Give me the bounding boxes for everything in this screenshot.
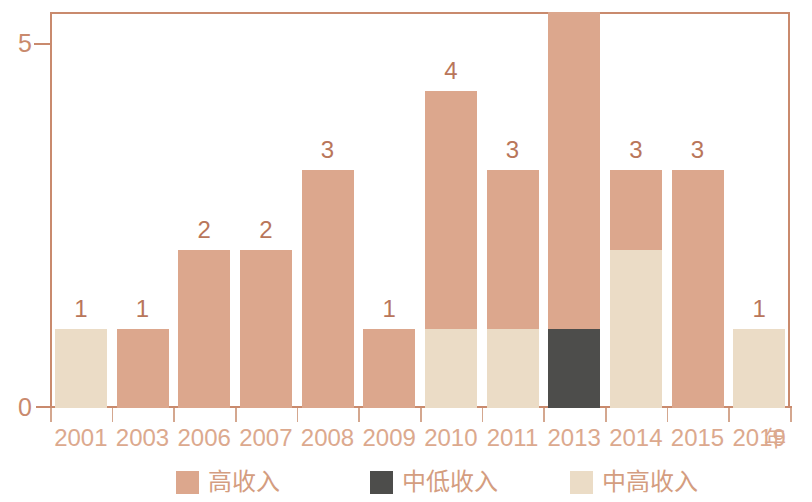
x-axis-label: 2010 — [420, 426, 482, 450]
x-axis-label: 2015 — [667, 426, 729, 450]
x-axis-label: 2007 — [235, 426, 297, 450]
bar-group[interactable] — [672, 170, 724, 408]
bar-segment[interactable] — [733, 329, 785, 408]
x-axis-label: 2006 — [173, 426, 235, 450]
x-axis-tick-mark — [297, 408, 299, 422]
legend-item-lower-middle-income[interactable]: 中低收入 — [370, 470, 498, 494]
x-axis-tick-mark — [112, 408, 114, 422]
bar-group[interactable] — [610, 170, 662, 408]
chart-legend: 高收入 中低收入 中高收入 — [0, 470, 812, 502]
x-axis-tick-mark — [358, 408, 360, 422]
bar-group[interactable] — [548, 12, 600, 408]
bar-segment[interactable] — [610, 170, 662, 249]
bar-segment[interactable] — [425, 91, 477, 329]
bar-value-label: 2 — [178, 218, 230, 242]
bar-segment[interactable] — [363, 329, 415, 408]
bar-segment[interactable] — [487, 329, 539, 408]
legend-item-high-income[interactable]: 高收入 — [176, 470, 280, 494]
x-axis-tick-mark — [790, 408, 792, 422]
legend-item-upper-middle-income[interactable]: 中高收入 — [570, 470, 698, 494]
x-axis-label: 2013 — [543, 426, 605, 450]
legend-swatch-high-income — [176, 471, 199, 494]
bar-segment[interactable] — [672, 170, 724, 408]
bar-segment[interactable] — [117, 329, 169, 408]
bar-value-label: 1 — [733, 297, 785, 321]
legend-swatch-lower-middle-income — [370, 471, 393, 494]
bar-segment[interactable] — [548, 12, 600, 329]
y-axis-tick-label-0: 0 — [2, 395, 32, 420]
bar-value-label: 2 — [240, 218, 292, 242]
legend-label-upper-middle-income: 中高收入 — [602, 470, 698, 494]
bar-segment[interactable] — [487, 170, 539, 328]
x-axis-tick-mark — [605, 408, 607, 422]
x-axis-label: 2009 — [358, 426, 420, 450]
x-axis-label: 2008 — [297, 426, 359, 450]
x-axis-label: 2001 — [50, 426, 112, 450]
bar-segment[interactable] — [610, 250, 662, 408]
bar-group[interactable] — [117, 329, 169, 408]
bar-segment[interactable] — [240, 250, 292, 408]
bar-group[interactable] — [178, 250, 230, 408]
bar-value-label: 1 — [55, 297, 107, 321]
x-axis-label: 2011 — [482, 426, 544, 450]
bar-group[interactable] — [240, 250, 292, 408]
x-axis-tick-mark — [543, 408, 545, 422]
x-axis-tick-mark — [50, 408, 52, 422]
bar-group[interactable] — [487, 170, 539, 408]
bar-value-label: 3 — [302, 138, 354, 162]
bar-group[interactable] — [733, 329, 785, 408]
x-axis-unit-label: 年 — [764, 428, 786, 450]
x-axis-tick-mark — [667, 408, 669, 422]
bar-value-label: 5 — [548, 0, 600, 4]
bar-group[interactable] — [425, 91, 477, 408]
x-axis-label: 2003 — [112, 426, 174, 450]
bars-layer: 112231435331 — [50, 12, 790, 408]
bar-segment[interactable] — [548, 329, 600, 408]
x-axis-tick-mark — [482, 408, 484, 422]
legend-label-high-income: 高收入 — [208, 470, 280, 494]
x-axis-tick-mark — [235, 408, 237, 422]
bar-segment[interactable] — [425, 329, 477, 408]
legend-label-lower-middle-income: 中低收入 — [402, 470, 498, 494]
bar-segment[interactable] — [55, 329, 107, 408]
bar-value-label: 3 — [487, 138, 539, 162]
bar-segment[interactable] — [178, 250, 230, 408]
bar-value-label: 4 — [425, 59, 477, 83]
bar-group[interactable] — [55, 329, 107, 408]
x-axis-label: 2014 — [605, 426, 667, 450]
bar-segment[interactable] — [302, 170, 354, 408]
bar-value-label: 1 — [117, 297, 169, 321]
x-axis-tick-mark — [728, 408, 730, 422]
x-axis-tick-mark — [420, 408, 422, 422]
stacked-bar-chart: 5 0 112231435331 20012003200620072008200… — [0, 0, 812, 502]
bar-group[interactable] — [302, 170, 354, 408]
legend-swatch-upper-middle-income — [570, 471, 593, 494]
y-axis-tick-label-5: 5 — [2, 31, 32, 56]
bar-value-label: 3 — [672, 138, 724, 162]
bar-value-label: 1 — [363, 297, 415, 321]
y-axis-tick-mark-5 — [34, 43, 50, 45]
bar-value-label: 3 — [610, 138, 662, 162]
x-axis-tick-mark — [173, 408, 175, 422]
bar-group[interactable] — [363, 329, 415, 408]
